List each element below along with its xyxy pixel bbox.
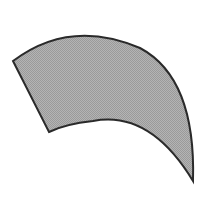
diagram-canvas [0,0,221,210]
arc-band-shape [13,36,193,181]
